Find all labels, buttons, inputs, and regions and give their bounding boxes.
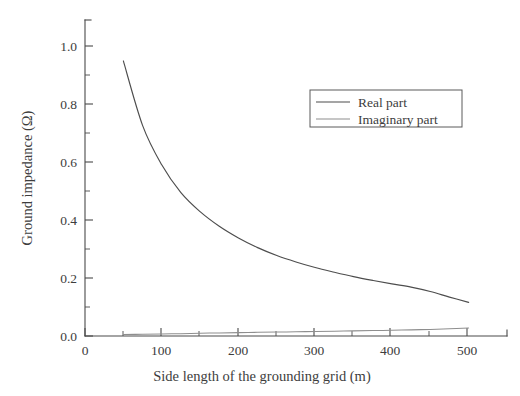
- y-tick-label-0.0: 0.0: [60, 329, 77, 344]
- x-axis-tick-labels: 0 100 200 300 400 500: [82, 343, 478, 358]
- x-tick-label-400: 400: [380, 343, 401, 358]
- series-line-imaginary-part: [123, 328, 468, 334]
- legend-label-imaginary-part: Imaginary part: [358, 112, 438, 127]
- x-tick-label-300: 300: [304, 343, 325, 358]
- x-tick-label-200: 200: [228, 343, 249, 358]
- chart-figure: 1.0 0.8 0.6 0.4 0.2 0.0 0 100 200 300 40…: [0, 0, 520, 396]
- y-tick-label-1.0: 1.0: [60, 39, 77, 54]
- x-axis-title: Side length of the grounding grid (m): [153, 368, 371, 385]
- legend[interactable]: Real part Imaginary part: [310, 90, 462, 127]
- chart-canvas: 1.0 0.8 0.6 0.4 0.2 0.0 0 100 200 300 40…: [0, 0, 520, 396]
- y-tick-label-0.8: 0.8: [60, 97, 77, 112]
- y-tick-label-0.6: 0.6: [60, 155, 77, 170]
- legend-label-real-part: Real part: [358, 95, 407, 110]
- y-tick-label-0.4: 0.4: [60, 213, 77, 228]
- y-axis-tick-labels: 1.0 0.8 0.6 0.4 0.2 0.0: [60, 39, 77, 344]
- y-axis-minor-ticks: [85, 75, 90, 307]
- x-tick-label-100: 100: [151, 343, 172, 358]
- axes: [85, 20, 507, 336]
- y-axis-title: Ground impedance (Ω): [19, 110, 36, 245]
- x-tick-label-500: 500: [457, 343, 478, 358]
- y-tick-label-0.2: 0.2: [60, 271, 77, 286]
- x-tick-label-0: 0: [82, 343, 89, 358]
